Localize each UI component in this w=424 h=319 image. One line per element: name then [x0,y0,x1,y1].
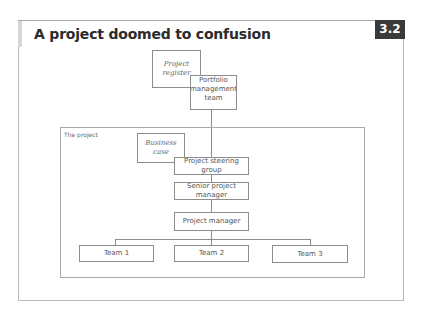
project-boundary-label: The project [64,131,98,138]
portfolio-management-team-node: Portfolio management team [190,75,237,110]
team-2-node: Team 2 [174,245,249,262]
senior-project-manager-node: Senior project manager [174,182,249,200]
team-3-node: Team 3 [272,245,348,263]
figure-title: A project doomed to confusion [34,26,271,42]
figure-number-badge: 3.2 [375,20,405,39]
frame-accent-bar [18,21,22,47]
project-steering-group-node: Project steering group [174,157,249,175]
project-manager-node: Project manager [174,212,249,231]
team-1-node: Team 1 [79,245,154,262]
